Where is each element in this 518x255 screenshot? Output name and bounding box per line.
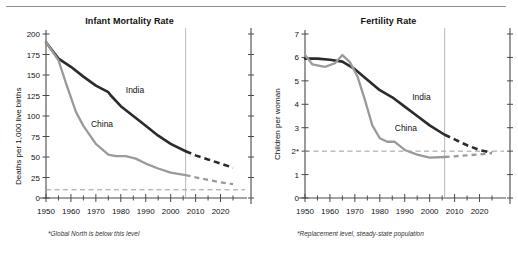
plot-area-infant-mortality: 0255075100125150175200195019601970198019… bbox=[0, 0, 259, 255]
x-tick-label: 1980 bbox=[112, 207, 130, 216]
x-tick-label: 2010 bbox=[446, 207, 464, 216]
y-tick-label: 7 bbox=[295, 30, 300, 39]
y-tick-label: 4 bbox=[295, 100, 300, 109]
y-tick-label: 150 bbox=[27, 71, 41, 80]
x-tick-label: 1950 bbox=[296, 207, 314, 216]
series-projection-china bbox=[186, 175, 233, 184]
series-label-china: China bbox=[395, 123, 417, 133]
x-tick-label: 2010 bbox=[187, 207, 205, 216]
x-tick-label: 1980 bbox=[371, 207, 389, 216]
y-tick-label: 5 bbox=[295, 77, 300, 86]
y-tick-label: 75 bbox=[31, 133, 40, 142]
x-tick-label: 1990 bbox=[396, 207, 414, 216]
chart-panel-fertility: Fertility Rate Children per woman *Repla… bbox=[259, 0, 518, 255]
series-projection-india bbox=[186, 151, 233, 167]
x-tick-label: 1950 bbox=[37, 207, 55, 216]
x-tick-label: 2020 bbox=[212, 207, 230, 216]
y-tick-label: 6 bbox=[295, 53, 300, 62]
series-projection-china bbox=[445, 153, 492, 157]
y-tick-label: 175 bbox=[27, 51, 41, 60]
y-tick-label: 3 bbox=[295, 124, 300, 133]
series-projection-india bbox=[445, 135, 492, 153]
y-tick-label: 0 bbox=[36, 194, 41, 203]
series-line-china bbox=[305, 55, 445, 158]
series-line-china bbox=[46, 42, 186, 175]
y-tick-label: 50 bbox=[31, 153, 40, 162]
x-tick-label: 1970 bbox=[87, 207, 105, 216]
plot-area-fertility: 012*345671950196019701980199020002010202… bbox=[259, 0, 518, 255]
figure-root: Infant Mortality Rate Deaths per 1,000 l… bbox=[0, 0, 518, 255]
x-tick-label: 1990 bbox=[137, 207, 155, 216]
series-label-india: India bbox=[126, 85, 145, 95]
y-tick-label: 25 bbox=[31, 174, 40, 183]
x-tick-label: 2020 bbox=[471, 207, 489, 216]
y-tick-label: 1 bbox=[295, 171, 300, 180]
chart-panel-infant-mortality: Infant Mortality Rate Deaths per 1,000 l… bbox=[0, 0, 259, 255]
y-tick-label: 100 bbox=[27, 112, 41, 121]
y-tick-label: 0 bbox=[295, 194, 300, 203]
x-tick-label: 1960 bbox=[321, 207, 339, 216]
x-tick-label: 2000 bbox=[421, 207, 439, 216]
y-tick-label: 2* bbox=[291, 147, 299, 156]
y-tick-label: 125 bbox=[27, 92, 41, 101]
series-label-india: India bbox=[412, 92, 431, 102]
series-label-china: China bbox=[91, 119, 113, 129]
series-line-india bbox=[46, 42, 186, 151]
y-tick-label: 200 bbox=[27, 30, 41, 39]
x-tick-label: 1970 bbox=[346, 207, 364, 216]
x-tick-label: 1960 bbox=[62, 207, 80, 216]
x-tick-label: 2000 bbox=[162, 207, 180, 216]
